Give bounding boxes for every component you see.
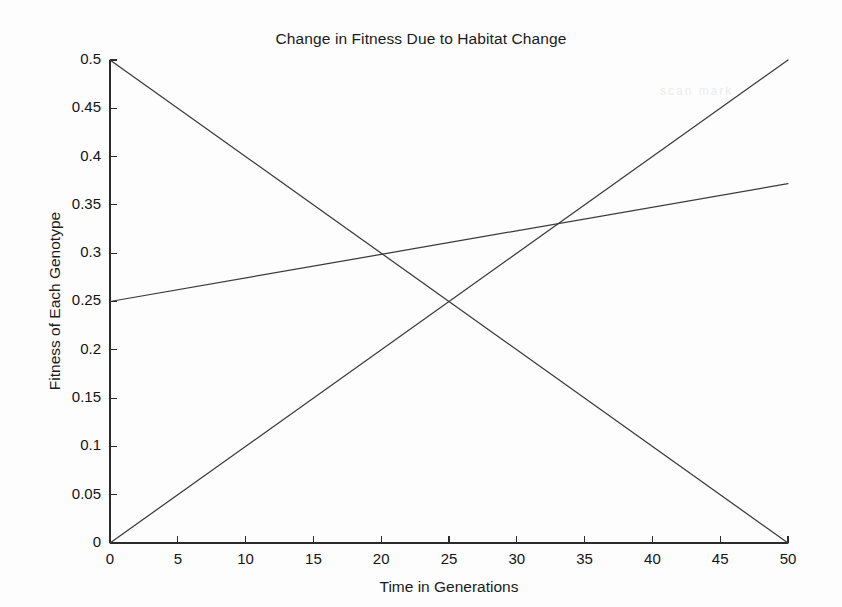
x-tick-label: 15 [305,550,322,567]
y-tick-label: 0.25 [72,291,101,308]
x-tick-label: 25 [441,550,458,567]
x-tick-label: 35 [576,550,593,567]
plot-area: 00.050.10.150.20.250.30.350.40.450.5 051… [0,0,842,607]
x-tick-label: 40 [644,550,661,567]
data-series-group [110,60,788,543]
y-tick-label: 0.5 [80,50,101,67]
x-tick-label: 0 [106,550,114,567]
x-tick-label: 10 [237,550,254,567]
y-tick-label: 0.1 [80,436,101,453]
x-axis-ticks: 05101520253035404550 [106,536,797,567]
y-tick-label: 0.35 [72,195,101,212]
x-tick-label: 20 [373,550,390,567]
x-axis-label: Time in Generations [110,578,788,596]
y-tick-label: 0.4 [80,147,101,164]
x-tick-label: 30 [508,550,525,567]
y-axis-label: Fitness of Each Genotype [46,171,64,431]
y-tick-label: 0.45 [72,98,101,115]
y-tick-label: 0.15 [72,388,101,405]
x-tick-label: 50 [780,550,797,567]
y-tick-label: 0.05 [72,485,101,502]
y-tick-label: 0 [93,533,101,550]
series-heterozygote-genotype [110,184,788,302]
x-tick-label: 5 [174,550,182,567]
x-tick-label: 45 [712,550,729,567]
chart-figure: Change in Fitness Due to Habitat Change … [0,0,842,607]
y-tick-label: 0.2 [80,340,101,357]
y-tick-label: 0.3 [80,243,101,260]
